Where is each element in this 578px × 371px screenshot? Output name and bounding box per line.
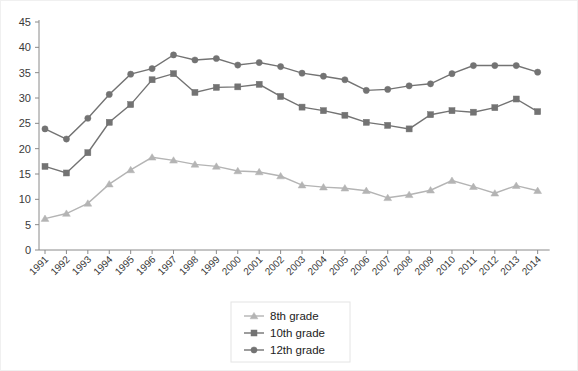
data-point <box>106 119 112 125</box>
data-point <box>128 71 134 77</box>
data-point <box>106 91 112 97</box>
data-point <box>192 89 198 95</box>
data-point <box>278 63 284 69</box>
y-tick-label: 35 <box>19 67 31 79</box>
data-point <box>85 115 91 121</box>
data-point <box>235 62 241 68</box>
x-tick-label: 1992 <box>48 253 72 277</box>
data-point <box>428 112 434 118</box>
data-point <box>427 81 433 87</box>
data-point <box>449 108 455 114</box>
chart-legend: 8th grade10th grade12th grade <box>231 302 350 362</box>
data-point <box>278 93 284 99</box>
data-point <box>63 136 69 142</box>
data-point <box>42 126 48 132</box>
data-point <box>299 70 305 76</box>
legend-marker-circle-icon <box>251 347 257 353</box>
data-point <box>470 109 476 115</box>
data-point <box>192 57 198 63</box>
data-point <box>127 166 135 172</box>
data-point <box>299 104 305 110</box>
x-tick-label: 2006 <box>348 253 372 277</box>
data-point <box>256 81 262 87</box>
data-point <box>63 210 71 216</box>
data-point <box>149 66 155 72</box>
data-point <box>342 77 348 83</box>
legend-label: 12th grade <box>270 344 325 356</box>
x-tick-label: 2011 <box>456 253 479 276</box>
data-point <box>513 96 519 102</box>
legend-marker-square-icon <box>251 330 257 336</box>
data-point <box>535 109 541 115</box>
data-point <box>149 77 155 83</box>
line-chart-canvas: 051015202530354045 199119921993199419951… <box>1 1 578 371</box>
y-tick-label: 0 <box>25 244 31 256</box>
data-point <box>256 59 262 65</box>
x-tick-label: 1993 <box>70 253 94 277</box>
y-tick-label: 40 <box>19 41 31 53</box>
data-point <box>492 62 498 68</box>
data-point <box>427 187 435 193</box>
x-tick-label: 2010 <box>434 253 458 277</box>
chart-figure: 051015202530354045 199119921993199419951… <box>0 0 578 371</box>
x-tick-group: 1991199219931994199519961997199819992000… <box>27 250 543 277</box>
data-point <box>342 112 348 118</box>
x-tick-label: 2008 <box>391 253 415 277</box>
y-tick-label: 15 <box>19 168 31 180</box>
data-point <box>128 102 134 108</box>
y-tick-label: 30 <box>19 92 31 104</box>
x-tick-label: 1999 <box>198 253 222 277</box>
data-point <box>320 108 326 114</box>
x-tick-label: 1996 <box>134 253 158 277</box>
data-point <box>42 163 48 169</box>
x-tick-label: 2002 <box>263 253 287 277</box>
x-tick-label: 2001 <box>241 253 265 277</box>
data-point <box>406 126 412 132</box>
y-axis: 051015202530354045 <box>19 16 39 256</box>
data-point <box>320 73 326 79</box>
x-tick-label: 2005 <box>327 253 351 277</box>
x-tick-label: 2000 <box>220 253 244 277</box>
y-tick-group: 051015202530354045 <box>19 16 39 256</box>
series-line <box>45 157 538 218</box>
data-point <box>363 87 369 93</box>
x-tick-label: 1998 <box>177 253 201 277</box>
data-point <box>85 150 91 156</box>
y-tick-label: 20 <box>19 143 31 155</box>
data-point <box>213 55 219 61</box>
y-tick-label: 25 <box>19 117 31 129</box>
x-tick-label: 2012 <box>477 253 501 277</box>
data-point <box>449 71 455 77</box>
series-group <box>41 52 541 222</box>
data-point <box>235 84 241 90</box>
data-point <box>170 52 176 58</box>
data-point <box>513 62 519 68</box>
data-point <box>363 119 369 125</box>
x-tick-label: 2014 <box>520 253 544 277</box>
series-line <box>45 74 538 173</box>
data-point <box>448 177 456 183</box>
data-point <box>63 170 69 176</box>
x-tick-label: 2004 <box>305 253 329 277</box>
data-point <box>385 86 391 92</box>
x-tick-label: 1997 <box>155 253 179 277</box>
data-point <box>148 154 156 160</box>
y-tick-label: 5 <box>25 219 31 231</box>
x-tick-label: 2009 <box>412 253 436 277</box>
legend-label: 8th grade <box>270 310 319 322</box>
data-point <box>406 83 412 89</box>
y-tick-label: 10 <box>19 193 31 205</box>
x-tick-label: 2013 <box>498 253 522 277</box>
x-tick-label: 1995 <box>113 253 137 277</box>
data-point <box>171 71 177 77</box>
series-8th-grade <box>41 154 541 222</box>
series-line <box>45 55 538 139</box>
x-axis: 1991199219931994199519961997199819992000… <box>27 250 550 277</box>
y-tick-label: 45 <box>19 16 31 28</box>
series-12th-grade <box>42 52 541 142</box>
data-point <box>470 62 476 68</box>
data-point <box>535 69 541 75</box>
x-tick-label: 2003 <box>284 253 308 277</box>
data-point <box>492 105 498 111</box>
data-point <box>385 122 391 128</box>
